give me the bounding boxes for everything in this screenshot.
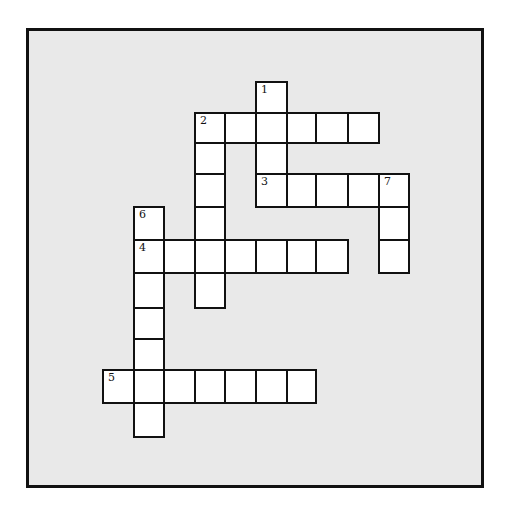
crossword-cell[interactable] bbox=[255, 142, 288, 175]
crossword-cell[interactable] bbox=[255, 239, 288, 274]
crossword-cell[interactable]: 7 bbox=[378, 173, 410, 208]
crossword-cell[interactable] bbox=[315, 239, 349, 274]
crossword-cell[interactable] bbox=[224, 112, 257, 144]
crossword-cell[interactable] bbox=[315, 112, 349, 144]
crossword-cell[interactable]: 2 bbox=[194, 112, 226, 144]
crossword-cell[interactable] bbox=[194, 173, 226, 208]
clue-number: 4 bbox=[139, 242, 146, 253]
crossword-cell[interactable] bbox=[286, 112, 317, 144]
crossword-cell[interactable] bbox=[133, 369, 165, 404]
clue-number: 6 bbox=[139, 209, 146, 220]
crossword-cell[interactable] bbox=[194, 239, 226, 274]
crossword-cell[interactable] bbox=[286, 369, 317, 404]
crossword-cell[interactable] bbox=[347, 173, 380, 208]
crossword-cell[interactable] bbox=[194, 206, 226, 241]
crossword-cell[interactable]: 4 bbox=[133, 239, 165, 274]
crossword-cell[interactable] bbox=[133, 402, 165, 438]
clue-number: 5 bbox=[108, 372, 115, 383]
crossword-cell[interactable] bbox=[378, 206, 410, 241]
crossword-cell[interactable] bbox=[133, 307, 165, 340]
crossword-cell[interactable] bbox=[224, 369, 257, 404]
crossword-cell[interactable] bbox=[255, 112, 288, 144]
crossword-cell[interactable] bbox=[224, 239, 257, 274]
crossword-cell[interactable] bbox=[286, 239, 317, 274]
clue-number: 1 bbox=[261, 84, 268, 95]
crossword-cell[interactable]: 5 bbox=[102, 369, 135, 404]
crossword-cell[interactable] bbox=[378, 239, 410, 274]
crossword-cell[interactable] bbox=[163, 369, 196, 404]
crossword-cell[interactable] bbox=[133, 338, 165, 371]
crossword-cell[interactable] bbox=[315, 173, 349, 208]
crossword-cell[interactable] bbox=[133, 272, 165, 309]
crossword-cell[interactable] bbox=[286, 173, 317, 208]
crossword-cell[interactable] bbox=[194, 369, 226, 404]
clue-number: 7 bbox=[384, 176, 391, 187]
clue-number: 3 bbox=[261, 176, 268, 187]
clue-number: 2 bbox=[200, 115, 207, 126]
crossword-cell[interactable] bbox=[255, 369, 288, 404]
crossword-cell[interactable]: 6 bbox=[133, 206, 165, 241]
crossword-cell[interactable] bbox=[163, 239, 196, 274]
crossword-cell[interactable] bbox=[194, 142, 226, 175]
crossword-cell[interactable] bbox=[347, 112, 380, 144]
crossword-cell[interactable] bbox=[194, 272, 226, 309]
crossword-cell[interactable]: 1 bbox=[255, 81, 288, 114]
crossword-cell[interactable]: 3 bbox=[255, 173, 288, 208]
